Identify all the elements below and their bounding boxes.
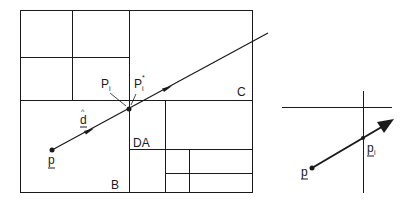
left-panel-grid — [20, 10, 253, 193]
label-p: p — [301, 165, 308, 179]
label-P-i-star: P — [134, 77, 142, 91]
label-C: C — [237, 85, 246, 99]
origin-point — [50, 148, 55, 153]
leader-line — [110, 93, 126, 106]
label-P-i-star-sup: * — [142, 74, 145, 81]
ray — [50, 33, 269, 153]
label-P-i-star-sub: i — [142, 85, 144, 92]
label-p: p — [48, 153, 55, 167]
label-p-i-sub: i — [374, 149, 376, 156]
arrowhead-icon — [377, 119, 394, 133]
leader-line — [131, 94, 136, 105]
outer-cell — [21, 11, 253, 193]
origin-point — [310, 166, 315, 171]
ray-segment — [312, 125, 385, 168]
intersection-point — [361, 136, 365, 140]
label-B: B — [111, 178, 119, 192]
label-p-i: p — [367, 141, 374, 155]
label-DA: DA — [133, 136, 150, 150]
diagram-canvas: P i P i * C d ^ p DA B p p i — [0, 0, 413, 203]
intersection-point — [127, 107, 132, 112]
right-panel: p p i — [282, 91, 394, 193]
label-d-hat: d — [80, 113, 87, 127]
left-labels: P i P i * C d ^ p DA B — [48, 74, 246, 192]
arrowhead-icon — [162, 86, 172, 92]
label-P-i-sub: i — [109, 85, 111, 92]
label-P-i: P — [101, 77, 109, 91]
